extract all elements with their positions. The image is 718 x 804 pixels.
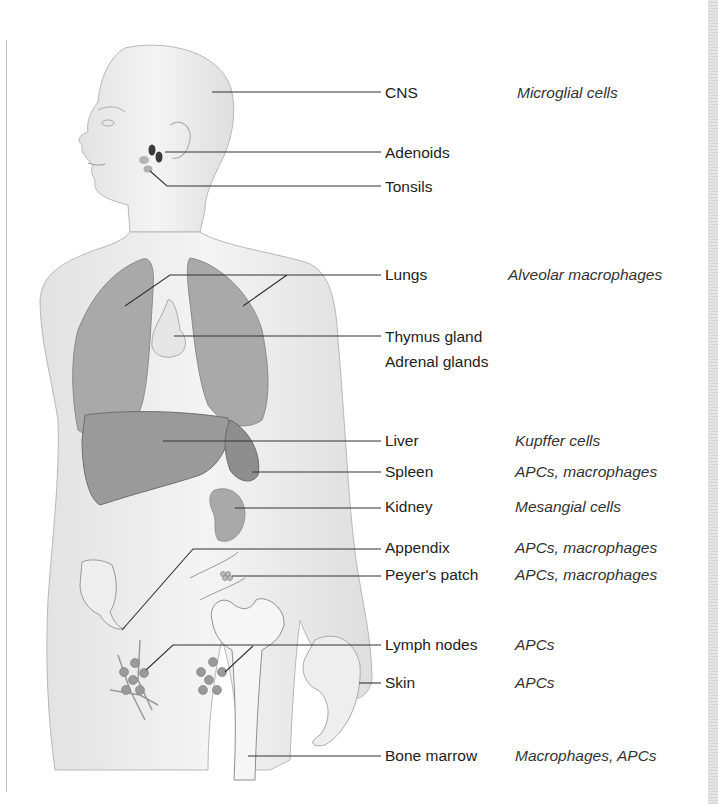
label-skin: Skin <box>385 674 415 692</box>
label-cns: CNS <box>385 84 418 102</box>
label-thymus: Thymus gland <box>385 328 482 346</box>
label-lungs: Lungs <box>385 266 427 284</box>
label-adenoids: Adenoids <box>385 144 450 162</box>
cells-spleen: APCs, macrophages <box>515 463 657 481</box>
cells-skin: APCs <box>515 674 555 692</box>
label-appendix: Appendix <box>385 539 450 557</box>
cells-appendix: APCs, macrophages <box>515 539 657 557</box>
label-lymph-nodes: Lymph nodes <box>385 636 478 654</box>
hand <box>303 636 360 746</box>
label-peyers-patch: Peyer's patch <box>385 566 478 584</box>
human-body-illustration <box>0 0 718 804</box>
label-bone-marrow: Bone marrow <box>385 747 477 765</box>
cells-lymph-nodes: APCs <box>515 636 555 654</box>
label-liver: Liver <box>385 432 419 450</box>
cells-liver: Kupffer cells <box>515 432 600 450</box>
cells-bone-marrow: Macrophages, APCs <box>515 747 657 765</box>
label-spleen: Spleen <box>385 463 433 481</box>
cells-kidney: Mesangial cells <box>515 498 621 516</box>
cells-lungs: Alveolar macrophages <box>508 266 662 284</box>
label-kidney: Kidney <box>385 498 432 516</box>
label-tonsils: Tonsils <box>385 178 432 196</box>
label-adrenal: Adrenal glands <box>385 353 488 371</box>
cells-peyers-patch: APCs, macrophages <box>515 566 657 584</box>
cells-cns: Microglial cells <box>517 84 618 102</box>
